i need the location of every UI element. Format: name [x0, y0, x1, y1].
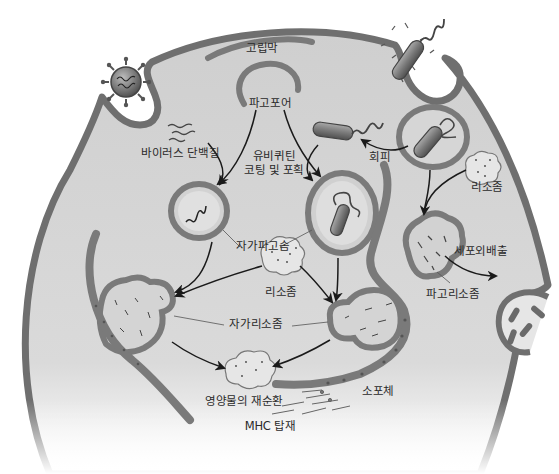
autophagosome-bacterial [308, 173, 376, 253]
label-escape: 회피 [369, 151, 390, 165]
autophagosome-viral [171, 184, 227, 238]
phagosome-with-bacterium [399, 107, 467, 167]
label-viral-protein: 바이러스 단백질 [141, 147, 219, 161]
label-lysosome-center: 리소좀 [265, 286, 297, 300]
label-phagophore: 파고포어 [249, 97, 292, 111]
autophagy-diagram: 고립막 파고포어 바이러스 단백질 유비퀴틴 코팅 및 포획 회피 리소좀 자가… [0, 0, 559, 474]
label-autophagosome: 자가파고솜 [236, 240, 290, 254]
label-phagolysosome: 파고리소좀 [426, 288, 480, 302]
bottom-fade [0, 400, 559, 474]
label-nutrient-recycling: 영양물의 재순환 [205, 395, 283, 409]
label-ubiquitin-line1: 유비퀴틴 [253, 150, 296, 164]
label-er: 소포체 [362, 385, 394, 399]
label-exocytosis: 세포외배출 [454, 245, 508, 259]
label-ubiquitin-line2: 코팅 및 포획 [244, 164, 304, 178]
label-mhc-loading: MHC 탑재 [245, 420, 295, 434]
exocytosis-vesicle [499, 292, 548, 352]
label-lysosome-right: 리소좀 [471, 181, 503, 195]
virus-particle [101, 57, 151, 107]
label-isolation-membrane: 고립막 [246, 42, 278, 56]
label-autolysosome: 자가리소좀 [229, 318, 283, 332]
